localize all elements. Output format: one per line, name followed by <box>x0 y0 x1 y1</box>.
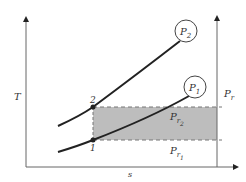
ts-diagram: P2 P1 2 1 T s Pr Pr2 Pr1 <box>0 0 246 182</box>
point-label-1: 1 <box>90 143 96 153</box>
svg-text:Pr1: Pr1 <box>169 145 184 161</box>
state-point-2 <box>91 105 96 110</box>
x-axis-label: s <box>128 170 132 179</box>
shaded-band <box>93 107 217 140</box>
point-label-2: 2 <box>89 95 96 105</box>
y-axis-label: T <box>14 91 22 102</box>
state-point-1 <box>91 138 96 143</box>
svg-text:Pr: Pr <box>223 88 235 102</box>
